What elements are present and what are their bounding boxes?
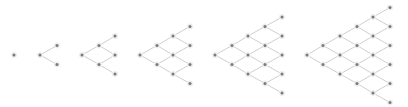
- tree-steps-1: [37, 43, 60, 68]
- lattice-node: [114, 54, 117, 57]
- lattice-node: [356, 25, 359, 28]
- lattice-node: [172, 73, 175, 76]
- lattice-node: [356, 63, 359, 66]
- lattice-node: [372, 73, 375, 76]
- lattice-node: [372, 54, 375, 57]
- lattice-node: [139, 54, 142, 57]
- node-group: [137, 24, 193, 87]
- lattice-node: [56, 44, 59, 47]
- tree-steps-0: [11, 52, 17, 58]
- lattice-node: [281, 54, 284, 57]
- lattice-node: [156, 44, 159, 47]
- lattice-node: [172, 54, 175, 57]
- lattice-node: [339, 54, 342, 57]
- lattice-node: [56, 63, 59, 66]
- lattice-node: [356, 82, 359, 85]
- edge-group: [82, 36, 115, 74]
- lattice-node: [264, 25, 267, 28]
- lattice-node: [372, 92, 375, 95]
- lattice-node: [247, 73, 250, 76]
- lattice-node: [264, 82, 267, 85]
- lattice-node: [389, 25, 392, 28]
- edge-group: [140, 27, 190, 84]
- tree-steps-2: [79, 33, 118, 77]
- lattice-node: [114, 73, 117, 76]
- lattice-node: [281, 73, 284, 76]
- lattice-node: [172, 35, 175, 38]
- node-group: [79, 33, 118, 77]
- lattice-node: [13, 54, 16, 57]
- lattice-node: [389, 6, 392, 9]
- tree-steps-4: [212, 14, 285, 96]
- lattice-node: [156, 63, 159, 66]
- lattice-node: [247, 35, 250, 38]
- node-group: [37, 43, 60, 68]
- lattice-node: [189, 44, 192, 47]
- lattice-node: [189, 82, 192, 85]
- lattice-node: [247, 54, 250, 57]
- tree-steps-5: [304, 5, 393, 106]
- node-group: [304, 5, 393, 106]
- lattice-node: [322, 63, 325, 66]
- lattice-node: [189, 63, 192, 66]
- lattice-node: [389, 101, 392, 104]
- lattice-node: [231, 44, 234, 47]
- lattice-node: [372, 16, 375, 19]
- lattice-node: [98, 44, 101, 47]
- lattice-node: [81, 54, 84, 57]
- lattice-node: [322, 44, 325, 47]
- lattice-node: [339, 35, 342, 38]
- lattice-node: [281, 35, 284, 38]
- lattice-node: [389, 63, 392, 66]
- tree-steps-3: [137, 24, 193, 87]
- edge-group: [307, 8, 390, 103]
- node-group: [212, 14, 285, 96]
- lattice-node: [264, 63, 267, 66]
- lattice-node: [356, 44, 359, 47]
- lattice-node: [339, 73, 342, 76]
- lattice-node: [189, 25, 192, 28]
- lattice-diagram: [0, 0, 408, 107]
- lattice-node: [306, 54, 309, 57]
- lattice-node: [372, 35, 375, 38]
- lattice-node: [231, 63, 234, 66]
- lattice-node: [98, 63, 101, 66]
- lattice-node: [389, 82, 392, 85]
- lattice-node: [281, 16, 284, 19]
- lattice-node: [39, 54, 42, 57]
- lattice-node: [214, 54, 217, 57]
- node-group: [11, 52, 17, 58]
- lattice-node: [264, 44, 267, 47]
- lattice-node: [114, 35, 117, 38]
- lattice-node: [281, 92, 284, 95]
- lattice-node: [389, 44, 392, 47]
